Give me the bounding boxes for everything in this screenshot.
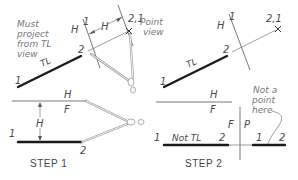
step2-fold-label-p: P [244,119,251,130]
step1-label: STEP 1 [30,158,67,169]
step2-note-line1: Not a [253,85,277,95]
step2-fold-line-h1 [229,14,250,70]
step2-fold-label-1: 1 [229,11,235,22]
step2-end-label-1: 1 [160,76,166,87]
step2-note-line2: point [251,95,275,105]
arrow-left-icon [89,30,95,34]
step1-end-label-2: 2 [78,44,84,55]
step2-tl-label: TL [185,56,199,70]
step1-note-line3: from TL [17,39,52,49]
step-2: 1 2 TL H 1 2,1 H F F P 1 Not TL 2 1 2 [154,11,285,169]
arrow-up-icon [38,102,42,107]
step-1: Must project from TL view 1 2 TL H 1 H 2… [9,5,164,169]
step2-profile-end-label-2: 2 [279,132,285,143]
step1-front-fold-label-f: F [64,104,70,115]
step1-note-line2: project [16,29,49,39]
step2-fold-label-f: F [228,119,234,130]
point-cross-icon [126,28,132,34]
step2-projection-line [232,30,276,52]
step2-note-line3: here [252,105,273,115]
step1-dimension-label-h: H [101,21,109,32]
step2-label: STEP 2 [185,158,222,169]
step2-not-tl-label: Not TL [172,133,201,143]
dividers-tool-front [82,101,144,142]
step2-profile-end-label-1: 1 [256,132,262,143]
step1-end-label-1: 1 [15,75,21,86]
step1-projection-line [88,31,129,51]
step1-front-end-label-1: 1 [9,128,15,139]
step2-front-fold-label-h: H [210,89,218,100]
arrow-down-icon [38,136,42,141]
step1-note-line4: view [17,49,38,59]
diagram-canvas: Must project from TL view 1 2 TL H 1 H 2… [0,0,298,180]
step1-fold-label-h: H [71,24,79,35]
step1-point-view-note-2: view [143,27,164,37]
step1-fold-label-1: 1 [83,16,89,27]
step1-point-view-note-1: Point [140,17,163,27]
step2-front-end-label-2: 2 [219,132,225,143]
step2-end-label-2: 2 [223,44,229,55]
step2-front-end-label-1: 1 [154,132,160,143]
step1-front-end-label-2: 2 [80,145,86,156]
step1-front-fold-label-h: H [64,89,72,100]
step1-note-line1: Must [17,19,39,29]
step2-fold-label-h: H [217,20,225,31]
step2-point-label: 2,1 [266,13,282,24]
dividers-tool-top [91,34,136,93]
step2-front-fold-label-f: F [210,104,216,115]
arrow-right-icon [116,17,122,22]
step1-front-dimension-label: H [36,118,44,129]
point-cross-icon [275,26,281,32]
step1-tl-label: TL [39,55,53,69]
